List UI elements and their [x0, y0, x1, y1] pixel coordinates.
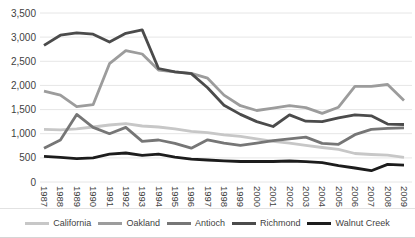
legend-line-swatch	[167, 222, 191, 225]
x-axis-tick-label: 2007	[366, 186, 377, 207]
x-axis-tick-label: 2008	[383, 186, 394, 207]
x-axis-tick-label: 1997	[203, 186, 214, 207]
x-axis-tick-label: 1990	[88, 186, 99, 207]
x-axis-tick-label: 1995	[170, 186, 181, 207]
legend-label: California	[53, 218, 91, 228]
x-axis-tick-label: 1999	[235, 186, 246, 207]
legend-line-swatch	[307, 222, 331, 225]
y-axis-tick-label: 1,500	[11, 104, 36, 115]
legend: CaliforniaOaklandAntiochRichmondWalnut C…	[0, 208, 415, 238]
y-axis-tick-label: 3,000	[11, 32, 36, 43]
x-axis-tick-label: 1987	[39, 186, 50, 207]
x-axis-tick-label: 1989	[72, 186, 83, 207]
x-axis-tick-label: 1992	[121, 186, 132, 207]
legend-line-swatch	[25, 222, 49, 225]
legend-item-antioch: Antioch	[167, 218, 225, 228]
x-axis-tick-label: 2009	[399, 186, 410, 207]
legend-item-walnut-creek: Walnut Creek	[307, 218, 389, 228]
x-axis-tick-label: 1993	[137, 186, 148, 207]
x-axis-tick-label: 2005	[334, 186, 345, 207]
legend-label: Antioch	[195, 218, 225, 228]
x-axis-tick-label: 2002	[285, 186, 296, 207]
y-axis-tick-label: 3,500	[11, 8, 36, 19]
series-line-antioch	[44, 114, 404, 148]
x-axis-tick-label: 1988	[55, 186, 66, 207]
legend-item-richmond: Richmond	[232, 218, 301, 228]
y-axis-tick-label: 2,500	[11, 56, 36, 67]
legend-label: Walnut Creek	[335, 218, 389, 228]
legend-label: Richmond	[260, 218, 301, 228]
x-axis-tick-label: 1996	[186, 186, 197, 207]
x-axis-tick-label: 1994	[154, 186, 165, 207]
x-axis-tick-label: 2003	[301, 186, 312, 207]
y-axis-tick-label: 0	[30, 177, 36, 188]
legend-item-california: California	[25, 218, 91, 228]
x-axis-tick-label: 2000	[252, 186, 263, 207]
x-axis-tick-label: 2004	[317, 186, 328, 207]
legend-item-oakland: Oakland	[98, 218, 160, 228]
legend-line-swatch	[98, 222, 122, 225]
x-axis-tick-label: 1998	[219, 186, 230, 207]
line-chart: 05001,0001,5002,0002,5003,0003,500198719…	[0, 0, 415, 208]
y-axis-tick-label: 1,000	[11, 128, 36, 139]
x-axis-tick-label: 1991	[105, 186, 116, 207]
line-chart-screenshot: 05001,0001,5002,0002,5003,0003,500198719…	[0, 0, 415, 238]
x-axis-tick-label: 2001	[268, 186, 279, 207]
legend-line-swatch	[232, 222, 256, 225]
y-axis-tick-label: 500	[19, 152, 36, 163]
series-line-walnut-creek	[44, 153, 404, 171]
series-line-richmond	[44, 30, 404, 127]
x-axis-tick-label: 2006	[350, 186, 361, 207]
y-axis-tick-label: 2,000	[11, 80, 36, 91]
legend-label: Oakland	[126, 218, 160, 228]
